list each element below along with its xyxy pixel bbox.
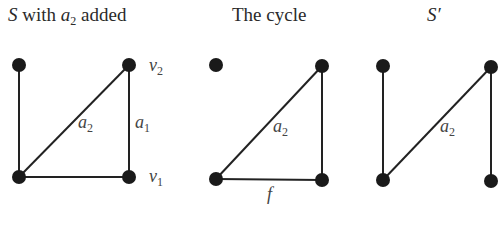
panel-title-cycle: The cycle bbox=[232, 4, 306, 26]
edge-label-a2: a2 bbox=[440, 116, 455, 140]
vertex bbox=[315, 173, 329, 187]
edge-label-a2: a2 bbox=[78, 112, 93, 136]
vertex bbox=[209, 58, 223, 72]
edge-a2 bbox=[383, 67, 491, 180]
vertex-label-v1: v1 bbox=[149, 166, 163, 190]
vertex bbox=[209, 172, 223, 186]
vertex bbox=[315, 59, 329, 73]
vertex bbox=[376, 59, 390, 73]
vertex bbox=[484, 174, 498, 188]
vertex-v1 bbox=[122, 170, 136, 184]
panel-title-s-with-a2: S with a2 added bbox=[8, 4, 126, 29]
edge-label-a2: a2 bbox=[273, 116, 288, 140]
panel-title-s-prime: S′ bbox=[427, 4, 441, 26]
vertex-v2 bbox=[122, 58, 136, 72]
edge-a2 bbox=[216, 66, 322, 179]
edge-f bbox=[216, 179, 322, 180]
vertex-label-v2: v2 bbox=[149, 55, 163, 79]
edge-label-f: f bbox=[267, 184, 272, 205]
edge-label-a1: a1 bbox=[135, 112, 150, 136]
vertex bbox=[12, 58, 26, 72]
graph-diagram bbox=[0, 0, 504, 240]
vertex bbox=[12, 170, 26, 184]
vertex bbox=[376, 173, 390, 187]
vertex bbox=[484, 60, 498, 74]
edge-a2 bbox=[19, 65, 129, 177]
